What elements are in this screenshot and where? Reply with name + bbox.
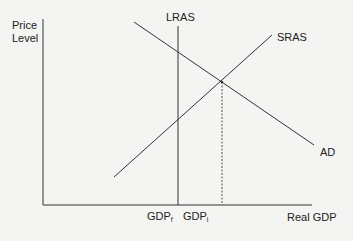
y-axis-label: Price Level [12,19,38,45]
y-axis-label-line1: Price [12,19,38,32]
x-axis-label: Real GDP [287,211,337,224]
x-tick-gdp-f: GDPf [147,210,173,226]
x-tick-gdp-i: GDPi [183,210,208,226]
x-tick-gdp-i-sub: i [207,216,209,223]
equilibrium-point [221,81,223,83]
sras-curve [114,35,272,177]
x-tick-gdp-f-base: GDP [147,210,171,222]
x-tick-gdp-f-sub: f [171,216,173,223]
ad-label: AD [320,146,335,159]
sras-label: SRAS [277,31,307,44]
x-tick-gdp-i-base: GDP [183,210,207,222]
lras-label: LRAS [166,11,195,24]
y-axis-label-line2: Level [12,32,38,45]
